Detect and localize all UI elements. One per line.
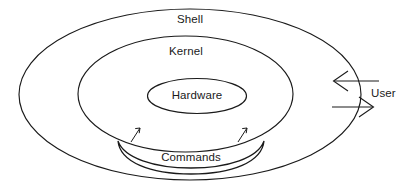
shell-label: Shell bbox=[177, 14, 203, 26]
user-label: User bbox=[371, 88, 396, 100]
hardware-label: Hardware bbox=[172, 90, 223, 102]
commands-label: Commands bbox=[161, 152, 221, 164]
diagram-canvas: Shell Kernel Hardware Commands User bbox=[0, 0, 412, 190]
commands-kernel-arrow-right-shaft bbox=[238, 128, 247, 142]
commands-kernel-arrow-left-shaft bbox=[131, 128, 140, 142]
kernel-label: Kernel bbox=[169, 46, 203, 58]
